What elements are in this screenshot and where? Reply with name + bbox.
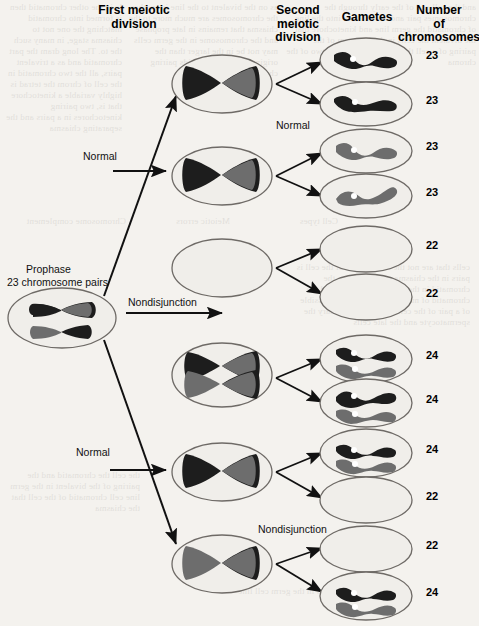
chromosome-count-8: 24	[415, 393, 449, 405]
prophase-cell	[8, 288, 116, 348]
gamete-2	[320, 82, 412, 126]
chromosome-count-7: 24	[415, 349, 449, 361]
chromosome-count-2: 23	[415, 94, 449, 106]
gamete-1	[320, 38, 412, 82]
second-division-arrows	[276, 62, 322, 592]
meiosis1-cell-empty-nondisjunction	[172, 239, 272, 297]
prophase-label-line2: 23 chromosome pairs	[7, 276, 108, 288]
chromosome-count-4: 23	[415, 186, 449, 198]
gamete-8	[320, 379, 412, 427]
figure-canvas: le in the other chromatid then is formed…	[0, 0, 479, 626]
chromosome-count-11: 22	[415, 539, 449, 551]
meiosis1-cell-normal-c	[172, 443, 272, 501]
gamete-7	[320, 335, 412, 383]
meiosis1-cell-normal-b	[172, 147, 272, 205]
header-first-meiotic-division: First meiotic division	[74, 4, 194, 31]
chromosome-count-5: 22	[415, 239, 449, 251]
chromosome-count-10: 22	[415, 490, 449, 502]
chromosome-count-6: 22	[415, 287, 449, 299]
prophase-label-line1: Prophase	[26, 263, 71, 275]
meiosis1-cell-double-nondisjunction	[172, 343, 272, 407]
label-normal-second-division: Normal	[276, 119, 310, 131]
header-second-meiotic-division: Second meiotic division	[262, 4, 334, 45]
label-normal-top: Normal	[83, 150, 117, 162]
chromosome-count-12: 24	[415, 586, 449, 598]
meiosis1-cell-normal-d	[172, 535, 272, 593]
gamete-4	[320, 174, 412, 218]
label-nondisjunction-meiosis2: Nondisjunction	[258, 523, 327, 535]
gamete-3	[320, 129, 412, 173]
gamete-6	[320, 274, 412, 320]
meiosis1-cell-normal-a	[172, 55, 272, 113]
gamete-12	[320, 572, 412, 620]
gamete-11	[320, 526, 412, 572]
gamete-5	[320, 226, 412, 272]
header-gametes: Gametes	[334, 11, 400, 25]
header-number-of-chromosomes: Number of chromosomes	[398, 4, 479, 45]
gamete-9	[320, 429, 412, 477]
chromosome-count-1: 23	[415, 49, 449, 61]
gamete-10	[320, 477, 412, 523]
label-nondisjunction-meiosis1: Nondisjunction	[128, 296, 197, 308]
chromosome-count-3: 23	[415, 140, 449, 152]
label-normal-bottom: Normal	[76, 446, 110, 458]
chromosome-count-9: 24	[415, 443, 449, 455]
diagram-artwork	[0, 0, 479, 626]
